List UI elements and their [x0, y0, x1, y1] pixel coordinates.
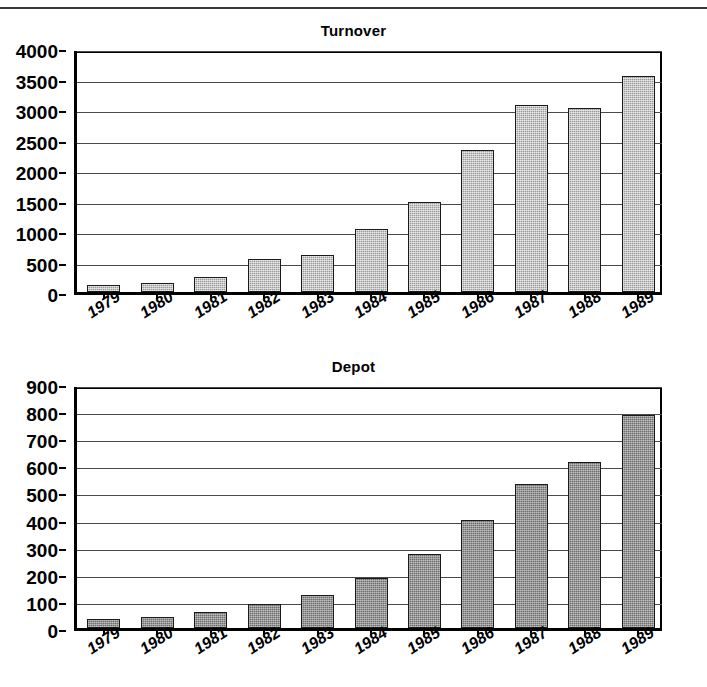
bar	[568, 462, 601, 628]
bar	[622, 76, 655, 292]
bar	[515, 484, 548, 628]
y-axis-tick-label: 700	[26, 432, 58, 451]
y-axis-tick	[59, 172, 66, 174]
bar	[408, 202, 441, 292]
chart-depot-title: Depot	[0, 358, 707, 375]
y-axis-tick	[59, 440, 66, 442]
bar	[248, 604, 281, 628]
chart-depot-plot	[74, 387, 662, 631]
chart-turnover-y-axis: 05001000150020002500300035004000	[0, 39, 66, 309]
bar	[355, 229, 388, 292]
y-axis-tick	[59, 264, 66, 266]
y-axis-tick-label: 2000	[16, 164, 58, 183]
y-axis-tick-label: 300	[26, 540, 58, 559]
plot-border-right	[660, 51, 662, 292]
y-axis-tick-label: 3000	[16, 103, 58, 122]
y-axis-tick-label: 100	[26, 594, 58, 613]
chart-depot-plot-area: 0100200300400500600700800900 19791980198…	[0, 375, 707, 645]
bar	[301, 255, 334, 292]
y-axis-tick	[59, 233, 66, 235]
y-axis-tick-label: 0	[47, 286, 58, 305]
chart-turnover-title: Turnover	[0, 22, 707, 39]
y-axis-tick-label: 200	[26, 567, 58, 586]
bar	[515, 105, 548, 292]
chart-turnover-plot-area: 05001000150020002500300035004000 1979198…	[0, 39, 707, 309]
y-axis-tick	[59, 413, 66, 415]
y-axis-tick-label: 900	[26, 378, 58, 397]
y-axis-tick	[59, 576, 66, 578]
bar	[622, 415, 655, 628]
y-axis-tick	[59, 522, 66, 524]
y-axis-tick	[59, 494, 66, 496]
y-axis-tick-label: 1000	[16, 225, 58, 244]
y-axis-tick-label: 500	[26, 486, 58, 505]
y-axis-tick-label: 400	[26, 513, 58, 532]
chart-depot-y-axis: 0100200300400500600700800900	[0, 375, 66, 645]
plot-border-right	[660, 387, 662, 628]
y-axis-tick	[59, 111, 66, 113]
y-axis-tick	[59, 386, 66, 388]
bar	[301, 595, 334, 628]
y-axis-tick	[59, 294, 66, 296]
y-axis-tick	[59, 50, 66, 52]
y-axis-tick-label: 800	[26, 405, 58, 424]
gridline	[77, 82, 662, 83]
bar	[408, 554, 441, 628]
chart-turnover-plot	[74, 51, 662, 295]
bar	[461, 150, 494, 292]
gridline	[77, 51, 662, 52]
chart-depot: Depot 0100200300400500600700800900 19791…	[0, 358, 707, 645]
y-axis-tick-label: 2500	[16, 133, 58, 152]
bar	[568, 108, 601, 292]
y-axis-tick-label: 3500	[16, 72, 58, 91]
y-axis-tick	[59, 142, 66, 144]
chart-turnover: Turnover 0500100015002000250030003500400…	[0, 22, 707, 309]
y-axis-tick-label: 4000	[16, 42, 58, 61]
page-top-rule	[0, 7, 707, 9]
y-axis-tick	[59, 549, 66, 551]
y-axis-tick-label: 600	[26, 459, 58, 478]
y-axis-tick-label: 1500	[16, 194, 58, 213]
y-axis-tick-label: 0	[47, 622, 58, 641]
y-axis-tick	[59, 81, 66, 83]
y-axis-tick	[59, 467, 66, 469]
y-axis-tick	[59, 203, 66, 205]
gridline	[77, 414, 662, 415]
gridline	[77, 441, 662, 442]
bar	[461, 520, 494, 628]
y-axis-tick	[59, 603, 66, 605]
bar	[355, 578, 388, 628]
y-axis-tick	[59, 630, 66, 632]
bar	[248, 259, 281, 292]
gridline	[77, 387, 662, 388]
y-axis-tick-label: 500	[26, 255, 58, 274]
